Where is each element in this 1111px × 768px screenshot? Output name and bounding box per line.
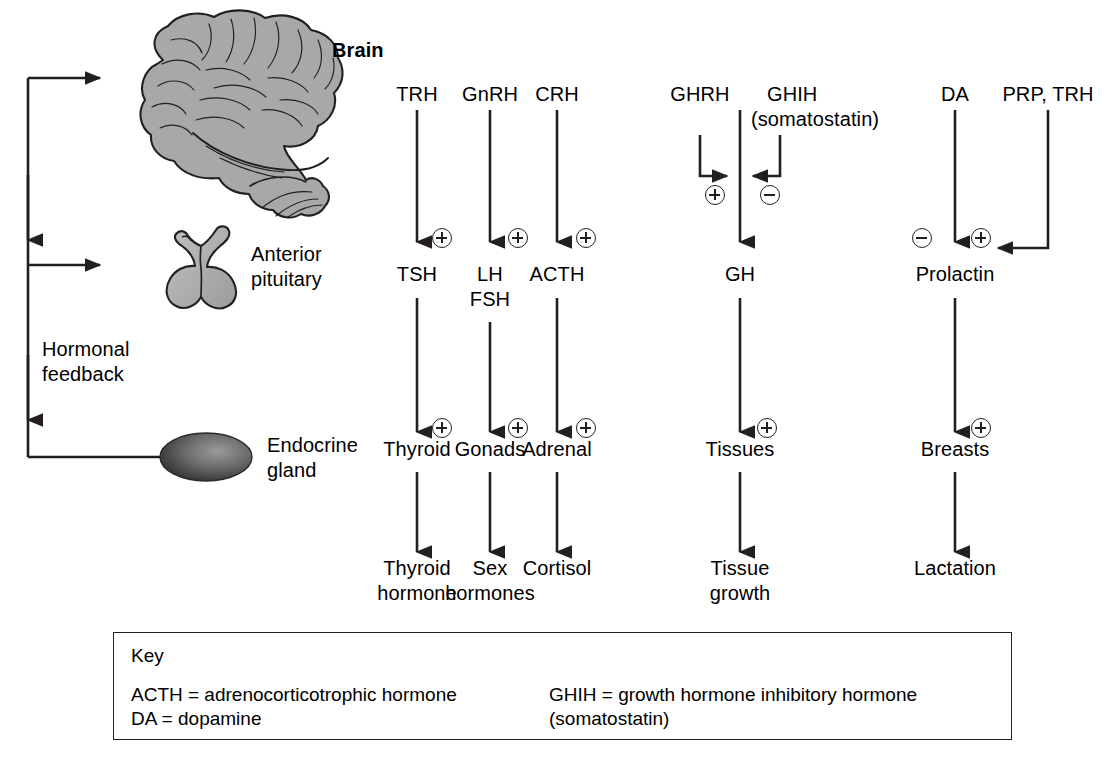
sign-plus-acth [576,228,596,248]
diagram-canvas: Brain Anterior pituitary Endocrine gland… [0,0,1111,768]
sign-plus-lhfsh [508,228,528,248]
sign-minus-prolactin [912,228,932,248]
inhibiting-hormone-somatostatin-alt: (somatostatin) [751,107,879,132]
hormonal-feedback-loop [28,78,160,457]
pituitary-hormone-acth: ACTH [530,262,585,287]
pituitary-hormone-prolactin: Prolactin [916,262,995,287]
product-sex-hormones: Sex hormones [445,556,535,606]
axis-line-group-growth [700,110,780,552]
inhibiting-hormone-ghih: GHIH [767,82,817,107]
product-cortisol: Cortisol [523,556,592,581]
sign-plus-thyroid [432,418,452,438]
key-entries-left: ACTH = adrenocorticotrophic hormone DA =… [131,683,457,731]
bracket-ghrh-stimulatory [700,135,727,176]
releasing-hormone-ghrh: GHRH [670,82,729,107]
sign-plus-breasts [971,418,991,438]
pituitary-hormone-gh: GH [725,262,755,287]
sign-plus-tissues [757,418,777,438]
brain-label: Brain [332,38,384,63]
sign-plus-tsh [432,228,452,248]
axis-line-group-prolactin [955,110,1048,552]
target-organ-thyroid: Thyroid [383,437,450,462]
releasing-hormone-crh: CRH [535,82,579,107]
sign-plus-gonads [508,418,528,438]
anterior-pituitary-label: Anterior pituitary [251,242,322,292]
releasing-hormone-gnrh: GnRH [462,82,518,107]
sign-plus-prolactin [971,228,991,248]
key-title: Key [131,645,164,667]
bracket-ghih-inhibitory [753,135,780,176]
endocrine-gland-illustration [160,433,252,481]
product-tissue-growth: Tissue growth [710,556,771,606]
sign-plus-ghrh [705,185,725,205]
key-entries-right: GHIH = growth hormone inhibitory hormone… [549,683,917,731]
endocrine-gland-label: Endocrine gland [267,433,358,483]
target-organ-adrenal: Adrenal [522,437,592,462]
target-organ-breasts: Breasts [921,437,990,462]
brain-illustration [140,10,342,217]
releasing-hormone-prp-trh: PRP, TRH [1002,82,1093,107]
target-organ-tissues: Tissues [706,437,775,462]
target-organ-gonads: Gonads [455,437,526,462]
sign-minus-ghih [760,185,780,205]
hormonal-feedback-label: Hormonal feedback [42,337,130,387]
elbow-prp-trh-prolactin [998,110,1048,248]
pituitary-hormone-tsh: TSH [397,262,437,287]
pituitary-illustration [167,226,236,308]
inhibiting-hormone-da: DA [941,82,969,107]
product-lactation: Lactation [914,556,996,581]
sign-plus-adrenal [576,418,596,438]
pituitary-hormone-lh-fsh: LH FSH [470,262,510,312]
releasing-hormone-trh: TRH [396,82,437,107]
